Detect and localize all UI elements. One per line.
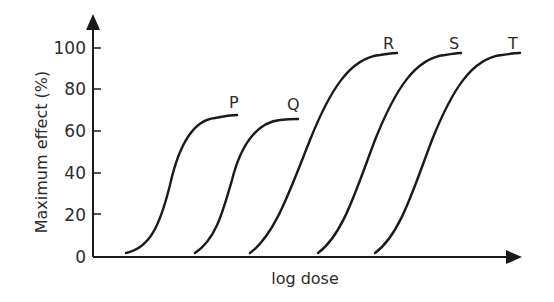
y-tick-80: 80 <box>64 79 86 99</box>
y-tick-40: 40 <box>64 163 86 183</box>
x-axis-arrow-icon <box>506 250 522 264</box>
label-s: S <box>449 34 459 53</box>
y-axis-title: Maximum effect (%) <box>32 71 51 233</box>
y-tick-20: 20 <box>64 205 86 225</box>
dose-response-chart: 0 20 40 60 80 100 Maximum effect (%) log… <box>0 0 554 302</box>
y-tick-100: 100 <box>54 38 86 58</box>
curve-labels: P Q R S T <box>229 34 518 114</box>
y-tick-labels: 0 20 40 60 80 100 <box>54 38 86 267</box>
label-q: Q <box>287 95 300 114</box>
y-tick-0: 0 <box>75 247 86 267</box>
y-axis-arrow-icon <box>86 14 100 30</box>
y-tick-60: 60 <box>64 121 86 141</box>
label-p: P <box>229 93 239 112</box>
curve-p <box>126 115 237 253</box>
curve-q <box>195 119 298 253</box>
y-ticks <box>93 48 101 214</box>
label-t: T <box>507 34 518 53</box>
label-r: R <box>383 34 394 53</box>
x-axis-title: log dose <box>271 269 339 288</box>
curve-t <box>375 53 520 253</box>
curves <box>126 53 520 253</box>
curve-r <box>250 53 397 253</box>
